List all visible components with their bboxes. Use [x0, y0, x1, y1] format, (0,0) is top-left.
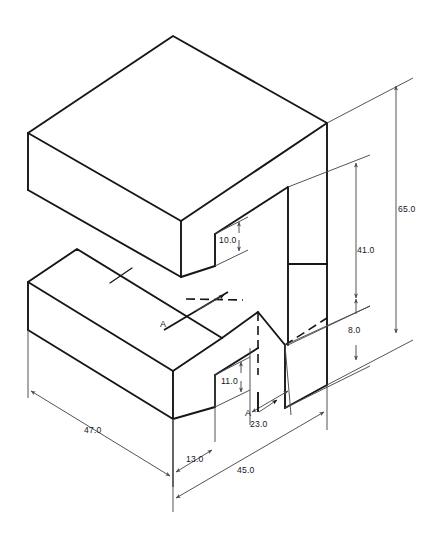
technical-drawing-canvas: 65.0 41.0 8.0 10.0: [0, 0, 431, 542]
hidden-edge-slot-back-right: [285, 318, 327, 345]
dim-label-height-upper-step: 41.0: [357, 245, 375, 255]
lower-slot-inner-top-edge: [215, 348, 258, 375]
isometric-drawing: 65.0 41.0 8.0 10.0: [0, 0, 431, 542]
lower-slot-bottom-edge: [173, 407, 215, 419]
dim-label-depth-right-face: 23.0: [250, 419, 268, 429]
lower-block-rear-right-edge: [258, 312, 285, 345]
dimension-height-overall: 65.0: [327, 78, 416, 385]
ext-line-65-top: [327, 78, 413, 123]
section-label-a-lower: A: [245, 408, 251, 418]
dim-label-notch-depth-upper: 10.0: [219, 235, 237, 245]
dim-label-height-lower-gap: 8.0: [348, 325, 361, 335]
dim-label-notch-depth-lower: 11.0: [221, 376, 238, 386]
ext-line-11-top: [215, 357, 250, 375]
dimension-slot-width: 13.0: [173, 375, 215, 487]
dim-label-length-left-block: 47.0: [84, 425, 102, 435]
section-arrow-a-upper: [196, 295, 224, 311]
ext-line-11-bottom: [215, 390, 250, 407]
lower-block-rear-top-edge: [222, 312, 258, 338]
solid-faces: [28, 36, 327, 419]
section-label-a-upper: A: [160, 319, 166, 329]
dim-label-height-overall: 65.0: [398, 204, 416, 214]
dim-label-slot-width: 13.0: [186, 454, 204, 464]
dim-label-depth-overall: 45.0: [237, 465, 255, 475]
ext-line-65-bottom: [327, 340, 413, 385]
